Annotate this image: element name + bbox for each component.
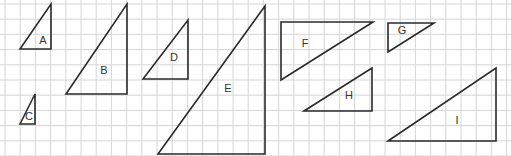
triangle-g: G bbox=[388, 23, 434, 52]
triangle-h: H bbox=[304, 68, 372, 111]
triangle-label: B bbox=[100, 64, 107, 76]
triangle-label: D bbox=[170, 51, 178, 63]
triangle-label: F bbox=[302, 37, 309, 49]
triangles: ABCDEFGHI bbox=[20, 4, 496, 154]
triangle-label: E bbox=[224, 82, 231, 94]
triangle-i: I bbox=[388, 68, 496, 141]
triangle-label: G bbox=[398, 24, 407, 36]
triangle-label: A bbox=[39, 34, 47, 46]
triangle-outline bbox=[388, 68, 496, 141]
triangle-c: C bbox=[20, 94, 35, 124]
triangle-f: F bbox=[281, 22, 373, 80]
triangle-grid-diagram: ABCDEFGHI bbox=[0, 0, 511, 156]
triangle-outline bbox=[388, 23, 434, 52]
triangle-label: I bbox=[455, 114, 458, 126]
triangle-outline bbox=[281, 22, 373, 80]
triangle-label: C bbox=[25, 110, 33, 122]
triangle-outline bbox=[304, 68, 372, 111]
triangle-label: H bbox=[345, 89, 353, 101]
